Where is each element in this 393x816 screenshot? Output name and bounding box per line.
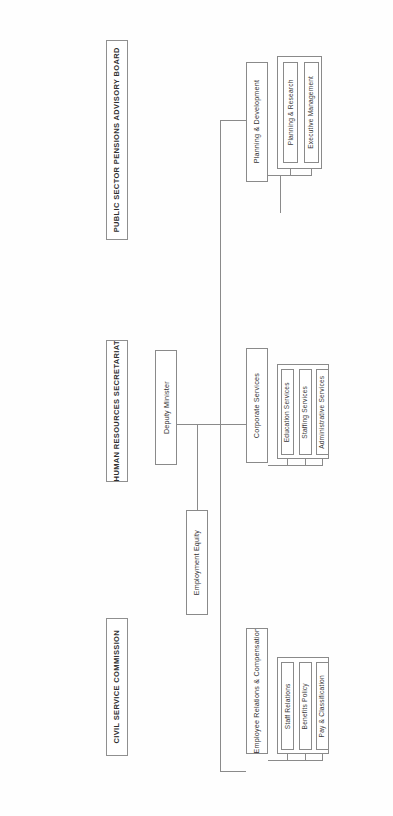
connector-deputy-minister-to-employment-equity [197,424,198,510]
connector-planning-development-bus [280,175,281,213]
header-box-civil-service-commission[interactable]: CIVIL SERVICE COMMISSION [106,618,128,756]
node-planning-development[interactable]: Planning & Development [246,62,268,182]
node-label-administrative-services: Administrative Services [319,375,326,448]
connector-employee-relations-stub [268,760,280,761]
header-box-human-resources-secretariat[interactable]: HUMAN RESOURCES SECRETARIAT [106,340,128,482]
org-chart-canvas: PUBLIC SECTOR PENSIONS ADVISORY BOARD HU… [0,0,393,816]
node-employee-relations-compensation[interactable]: Employee Relations & Compensation [246,628,268,754]
connector-deputy-minister-to-trunk [177,424,220,425]
node-label-employee-relations-compensation: Employee Relations & Compensation [253,628,260,754]
node-corporate-services[interactable]: Corporate Services [246,348,268,463]
node-label-benefits-policy: Benefits Policy [302,683,309,729]
node-employment-equity[interactable]: Employment Equity [186,510,208,615]
node-label-education-services: Education Services [284,382,291,442]
node-staffing-services[interactable]: Staffing Services [299,369,312,455]
node-label-planning-research: Planning & Research [287,80,294,146]
node-planning-research[interactable]: Planning & Research [283,62,298,163]
node-staff-relations[interactable]: Staff Relations [281,662,294,750]
connector-benefits-policy-drop [305,753,306,761]
connector-staffing-services-drop [305,458,306,466]
node-label-deputy-minister: Deputy Minister [162,381,169,434]
node-label-planning-development: Planning & Development [253,80,260,164]
node-label-executive-management: Executive Management [308,76,315,149]
node-pay-classification[interactable]: Pay & Classification [316,662,329,750]
node-label-corporate-services: Corporate Services [253,373,260,438]
node-label-staffing-services: Staffing Services [302,386,309,439]
header-box-public-sector-pensions-advisory-board[interactable]: PUBLIC SECTOR PENSIONS ADVISORY BOARD [106,40,128,240]
connector-corporate-services-stub [268,465,280,466]
connector-trunk-to-employee-relations [220,771,246,772]
node-education-services[interactable]: Education Services [281,369,294,455]
connector-pay-classification-drop [322,753,323,761]
connector-trunk-to-planning-development [220,120,246,121]
connector-planning-development-stub [268,175,280,176]
connector-main-trunk [220,120,221,772]
node-executive-management[interactable]: Executive Management [304,62,319,163]
header-label-civil-service-commission: CIVIL SERVICE COMMISSION [113,630,121,744]
header-label-pensions-board: PUBLIC SECTOR PENSIONS ADVISORY BOARD [113,47,121,232]
connector-planning-development-sub-bus [280,175,312,176]
connector-trunk-to-corporate-services [220,424,246,425]
node-benefits-policy[interactable]: Benefits Policy [299,662,312,750]
connector-education-services-drop [287,458,288,466]
node-administrative-services[interactable]: Administrative Services [316,369,329,455]
header-label-hr-secretariat: HUMAN RESOURCES SECRETARIAT [113,340,121,481]
connector-administrative-services-drop [322,458,323,466]
node-label-staff-relations: Staff Relations [284,683,291,729]
node-deputy-minister[interactable]: Deputy Minister [155,350,177,465]
node-label-pay-classification: Pay & Classification [319,675,326,737]
node-label-employment-equity: Employment Equity [193,530,200,595]
connector-staff-relations-drop [287,753,288,761]
